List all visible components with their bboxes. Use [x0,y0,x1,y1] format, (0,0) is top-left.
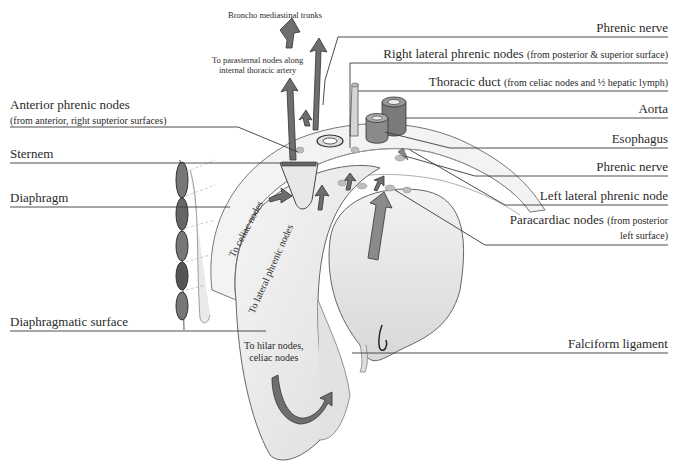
label-esophagus: Esophagus [612,131,668,146]
annotation-parasternal-nodes: To parasternal nodes along internal thor… [212,55,303,75]
label-phrenic-nerve-top: Phrenic nerve [596,20,668,35]
annotation-hilar-celiac-nodes: To hilar nodes, celiac nodes [244,340,304,364]
label-subtitle: (from celiac nodes and ½ hepatic lymph) [504,77,668,88]
inferior-vena-cava-ring [317,135,343,147]
annotation-line2: celiac nodes [244,352,304,364]
label-subtitle-line2: left surface) [510,228,668,243]
liver-left-lobe [329,189,464,372]
label-falciform-ligament: Falciform ligament [568,336,668,351]
label-subtitle: (from posterior [607,215,668,226]
annotation-line2: internal thoracic artery [212,65,303,75]
label-diaphragm: Diaphragm [10,190,68,205]
thoracic-duct-vessel [350,83,359,136]
label-thoracic-duct: Thoracic duct (from celiac nodes and ½ h… [429,74,668,90]
annotation-line1: To hilar nodes, [244,340,304,352]
label-aorta: Aorta [638,101,668,116]
label-diaphragmatic-surface: Diaphragmatic surface [10,314,128,329]
label-paracardiac-nodes: Paracardiac nodes (from posterior left s… [510,212,668,243]
label-subtitle: (from anterior, right supterior surfaces… [10,113,166,128]
label-left-lateral-phrenic-node: Left lateral phrenic node [540,188,668,203]
label-subtitle: (from posterior & superior surface) [527,49,668,60]
label-right-lateral-phrenic-nodes: Right lateral phrenic nodes (from poster… [383,46,668,62]
label-title: Right lateral phrenic nodes [383,46,523,61]
label-sternem: Sternem [10,146,53,161]
rib-cartilage-column [176,160,215,330]
annotation-line1: To parasternal nodes along [212,55,303,65]
label-title: Anterior phrenic nodes [10,97,166,112]
label-title: Paracardiac nodes [510,212,604,227]
label-title: Thoracic duct [429,74,501,89]
annotation-broncho-mediastinal-trunks: Broncho mediastinal trunks [228,10,322,20]
label-phrenic-nerve-bottom: Phrenic nerve [596,159,668,174]
label-anterior-phrenic-nodes: Anterior phrenic nodes (from anterior, r… [10,97,166,128]
